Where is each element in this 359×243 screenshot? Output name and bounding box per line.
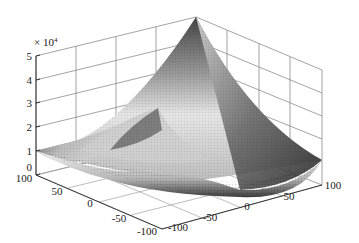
svg-text:0: 0 bbox=[87, 197, 93, 209]
svg-text:5: 5 bbox=[27, 50, 33, 62]
svg-text:4: 4 bbox=[27, 74, 33, 86]
svg-text:-50: -50 bbox=[203, 211, 218, 223]
svg-text:50: 50 bbox=[284, 190, 296, 202]
svg-text:3: 3 bbox=[27, 97, 33, 109]
z-tick-labels: 5 4 3 2 1 0 bbox=[27, 50, 33, 173]
surface-plot: × 104 5 4 3 2 1 0 100 50 0 -50 -100 -100… bbox=[0, 0, 359, 243]
svg-text:100: 100 bbox=[16, 172, 33, 184]
svg-text:50: 50 bbox=[52, 185, 64, 197]
surface bbox=[36, 17, 322, 197]
svg-text:-100: -100 bbox=[137, 225, 158, 237]
svg-text:-100: -100 bbox=[168, 221, 189, 233]
svg-text:-50: -50 bbox=[112, 212, 127, 224]
svg-text:100: 100 bbox=[325, 179, 342, 191]
svg-text:0: 0 bbox=[244, 200, 250, 212]
svg-text:2: 2 bbox=[27, 121, 33, 133]
z-axis-ticks bbox=[36, 55, 40, 175]
svg-text:1: 1 bbox=[27, 145, 33, 157]
z-multiplier-label: × 104 bbox=[34, 36, 58, 48]
